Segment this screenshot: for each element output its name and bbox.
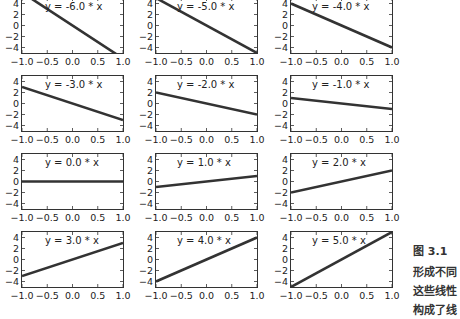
x-tick-label: 1.0: [245, 213, 269, 223]
y-tick-label: −2: [272, 110, 288, 120]
x-tick-label: −0.5: [304, 213, 328, 223]
x-tick-label: 0.5: [86, 57, 110, 67]
x-tick-label: −1.0: [144, 213, 168, 223]
y-tick-label: −4: [272, 199, 288, 209]
y-tick-label: −4: [3, 199, 19, 209]
x-tick-label: −0.5: [35, 213, 59, 223]
y-tick-label: 2: [272, 88, 288, 98]
x-tick-label: 0.5: [355, 57, 379, 67]
y-tick-label: 0: [3, 255, 19, 265]
x-tick-label: −1.0: [279, 213, 303, 223]
equation-label: y = -5.0 * x: [177, 1, 234, 12]
y-tick-label: 0: [137, 99, 153, 109]
equation-label: y = 1.0 * x: [177, 157, 231, 168]
x-tick-label: −1.0: [279, 135, 303, 145]
y-tick-label: 4: [137, 77, 153, 87]
x-tick-label: 1.0: [245, 291, 269, 301]
y-tick-label: −4: [272, 277, 288, 287]
x-tick-label: 1.0: [380, 135, 404, 145]
y-tick-label: 2: [272, 166, 288, 176]
y-tick-label: 4: [137, 233, 153, 243]
x-tick-label: 0.5: [355, 135, 379, 145]
caption-line-3: 这些线性: [413, 284, 457, 300]
x-tick-label: 0.0: [61, 291, 85, 301]
x-tick-label: 0.0: [61, 135, 85, 145]
x-tick-label: −0.5: [304, 57, 328, 67]
y-tick-label: −4: [137, 121, 153, 131]
x-tick-label: 0.0: [330, 291, 354, 301]
y-tick-label: 0: [137, 21, 153, 31]
x-tick-label: 0.5: [86, 213, 110, 223]
x-tick-label: −1.0: [10, 213, 34, 223]
y-tick-label: 0: [272, 99, 288, 109]
equation-label: y = -3.0 * x: [45, 79, 102, 90]
equation-label: y = 3.0 * x: [45, 235, 99, 246]
y-tick-label: 2: [3, 244, 19, 254]
y-tick-label: 4: [137, 0, 153, 9]
y-tick-label: −2: [3, 110, 19, 120]
x-tick-label: −1.0: [10, 135, 34, 145]
x-tick-label: −1.0: [144, 291, 168, 301]
x-tick-label: 1.0: [380, 213, 404, 223]
x-tick-label: 1.0: [111, 291, 135, 301]
x-tick-label: 0.0: [195, 57, 219, 67]
equation-label: y = -4.0 * x: [312, 1, 369, 12]
x-tick-label: 0.5: [86, 291, 110, 301]
y-tick-label: −4: [3, 43, 19, 53]
x-tick-label: −1.0: [279, 291, 303, 301]
y-tick-label: 4: [272, 0, 288, 9]
x-tick-label: 1.0: [111, 213, 135, 223]
x-tick-label: 0.0: [195, 135, 219, 145]
x-tick-label: −1.0: [144, 135, 168, 145]
x-tick-label: 0.5: [220, 213, 244, 223]
y-tick-label: 2: [3, 166, 19, 176]
x-tick-label: 0.5: [355, 213, 379, 223]
x-tick-label: −1.0: [144, 57, 168, 67]
x-tick-label: −0.5: [35, 57, 59, 67]
x-tick-label: 1.0: [111, 135, 135, 145]
x-tick-label: −1.0: [10, 291, 34, 301]
x-tick-label: 1.0: [245, 57, 269, 67]
y-tick-label: −4: [272, 43, 288, 53]
y-tick-label: 2: [272, 10, 288, 20]
y-tick-label: 2: [137, 10, 153, 20]
y-tick-label: 4: [272, 155, 288, 165]
y-tick-label: 4: [3, 77, 19, 87]
x-tick-label: −1.0: [279, 57, 303, 67]
x-tick-label: −0.5: [169, 291, 193, 301]
y-tick-label: −4: [272, 121, 288, 131]
equation-label: y = 2.0 * x: [312, 157, 366, 168]
equation-label: y = -1.0 * x: [312, 79, 369, 90]
y-tick-label: 2: [137, 244, 153, 254]
y-tick-label: 2: [3, 10, 19, 20]
y-tick-label: −2: [272, 266, 288, 276]
y-tick-label: 2: [272, 244, 288, 254]
x-tick-label: 0.5: [86, 135, 110, 145]
y-tick-label: 4: [272, 77, 288, 87]
equation-label: y = 5.0 * x: [312, 235, 366, 246]
y-tick-label: 0: [3, 21, 19, 31]
caption-line-2: 形成不同: [413, 265, 457, 281]
y-tick-label: 4: [137, 155, 153, 165]
y-tick-label: 0: [137, 177, 153, 187]
y-tick-label: 0: [137, 255, 153, 265]
y-tick-label: 0: [272, 177, 288, 187]
y-tick-label: −2: [272, 188, 288, 198]
y-tick-label: −2: [3, 188, 19, 198]
x-tick-label: 0.0: [61, 213, 85, 223]
y-tick-label: 0: [272, 255, 288, 265]
x-tick-label: −0.5: [169, 135, 193, 145]
x-tick-label: −0.5: [169, 213, 193, 223]
equation-label: y = -6.0 * x: [45, 1, 102, 12]
x-tick-label: 0.5: [220, 291, 244, 301]
x-tick-label: 0.0: [195, 291, 219, 301]
y-tick-label: −4: [137, 277, 153, 287]
x-tick-label: −0.5: [304, 135, 328, 145]
x-tick-label: −0.5: [35, 291, 59, 301]
y-tick-label: 4: [3, 233, 19, 243]
y-tick-label: −2: [3, 266, 19, 276]
y-tick-label: 2: [137, 166, 153, 176]
y-tick-label: 0: [3, 99, 19, 109]
y-tick-label: 4: [3, 0, 19, 9]
x-tick-label: 0.0: [330, 57, 354, 67]
